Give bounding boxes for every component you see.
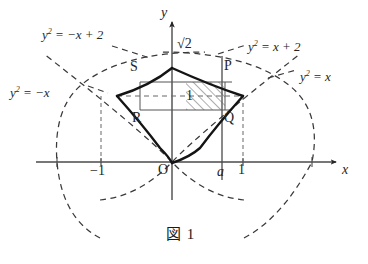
y-tick-label-sqrt2: √2	[177, 37, 192, 51]
origin-label: O	[158, 163, 168, 177]
leader-x	[268, 70, 296, 78]
point-label-s: S	[130, 60, 138, 74]
y-axis-label: y	[161, 6, 167, 20]
parabola-y2-eq-neg-x-plus-2	[160, 52, 314, 238]
curve-label-neg-x-plus-2: y2 = −x + 2	[42, 28, 103, 41]
point-label-p: P	[224, 59, 232, 73]
x-tick-label-neg-one: −1	[90, 164, 105, 178]
curve-label-x: y2 = x	[300, 70, 331, 83]
point-label-q: Q	[224, 111, 234, 125]
figure-caption: 図 1	[166, 222, 195, 243]
inner-region-label: 1	[186, 89, 193, 103]
figure-container: y2 = −x + 2 y2 = x + 2 y2 = −x y2 = x S …	[0, 0, 368, 264]
x-tick-label-one: 1	[238, 163, 245, 177]
curve-label-x-plus-2: y2 = x + 2	[248, 40, 301, 53]
boundary-lower-left	[117, 96, 172, 163]
x-tick-label-a: a	[217, 165, 224, 179]
parabola-y2-eq-x-plus-2	[56, 52, 205, 238]
curve-label-neg-x: y2 = −x	[10, 86, 50, 99]
leader-neg-x-plus-2	[112, 46, 150, 58]
parabola-y2-eq-x	[100, 54, 300, 200]
point-label-r: R	[132, 111, 141, 125]
leader-x-plus-2	[218, 45, 246, 54]
x-axis-label: x	[342, 163, 348, 177]
dashed-parabolas	[44, 52, 314, 238]
